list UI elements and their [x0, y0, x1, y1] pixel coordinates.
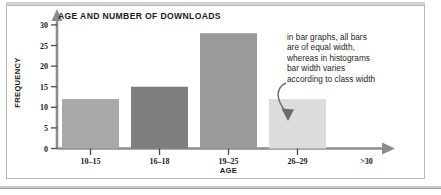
chart-title: AGE AND NUMBER OF DOWNLOADS: [58, 11, 221, 21]
annotation-line-5: according to class width: [287, 74, 419, 84]
x-tick-label-19-25: 19–25: [194, 157, 264, 166]
panel-bottom-rule: [0, 188, 441, 189]
annotation-text-block: in bar graphs, all bars are of equal wid…: [287, 32, 419, 84]
annotation-line-1: in bar graphs, all bars: [287, 32, 419, 42]
y-axis-label: FREQUENCY: [13, 53, 22, 113]
x-tick-label-16-18: 16–18: [125, 157, 195, 166]
y-tick-label-5: 5: [26, 124, 48, 133]
y-tick-label-25: 25: [26, 42, 48, 51]
annotation-line-4: bar width varies: [287, 63, 419, 73]
x-tick-label-over-30: >30: [332, 157, 402, 166]
y-tick-label-15: 15: [26, 83, 48, 92]
y-tick-label-20: 20: [26, 62, 48, 71]
annotation-line-3: whereas in histograms: [287, 53, 419, 63]
x-axis-label: AGE: [194, 166, 264, 175]
y-tick-label-0: 0: [26, 145, 48, 154]
x-tick-label-26-29: 26–29: [263, 157, 333, 166]
annotation-line-2: are of equal width,: [287, 42, 419, 52]
y-tick-label-10: 10: [26, 103, 48, 112]
x-tick-label-10-15: 10–15: [56, 157, 126, 166]
y-tick-label-30: 30: [26, 21, 48, 30]
figure-container: AGE AND NUMBER OF DOWNLOADS FREQUENCY 0 …: [0, 0, 441, 195]
